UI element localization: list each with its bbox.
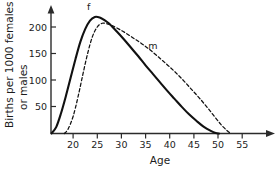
series-annotation-f: f — [87, 1, 91, 12]
y-axis-arrow-icon — [48, 5, 55, 14]
x-tick-label-25: 25 — [91, 139, 103, 150]
series-annotation-m: m — [148, 40, 157, 51]
births-by-age-chart: Births per 1000 females or males 200 150… — [0, 0, 279, 171]
x-axis-label: Age — [150, 154, 170, 166]
x-tick-label-20: 20 — [67, 139, 79, 150]
x-tick-label-45: 45 — [188, 139, 200, 150]
y-axis-label-line1: Births per 1000 females — [3, 1, 15, 128]
x-tick-label-35: 35 — [140, 139, 152, 150]
y-tick-label-100: 100 — [29, 75, 47, 86]
y-tick-label-50: 50 — [35, 101, 47, 112]
x-axis-arrow-icon — [266, 130, 275, 137]
x-tick-label-30: 30 — [115, 139, 127, 150]
x-tick-label-50: 50 — [212, 139, 224, 150]
y-tick-label-200: 200 — [29, 22, 47, 33]
y-axis-label-line2: or males — [17, 64, 29, 110]
x-tick-label-55: 55 — [236, 139, 248, 150]
y-tick-label-150: 150 — [29, 48, 47, 59]
series-curve-females — [51, 17, 219, 134]
chart-figure: Births per 1000 females or males 200 150… — [0, 0, 279, 171]
x-tick-label-40: 40 — [164, 139, 176, 150]
